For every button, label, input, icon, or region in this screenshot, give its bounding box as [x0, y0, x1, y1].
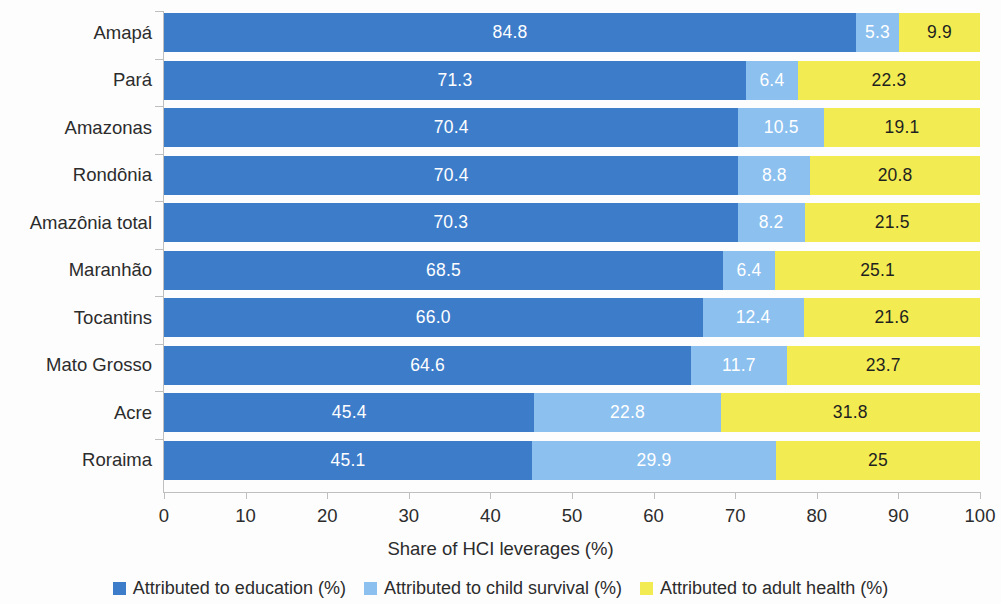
- bar-segment: 25.1: [775, 251, 980, 290]
- bar-value-label: 70.4: [434, 117, 469, 138]
- bar-segment: 6.4: [746, 61, 798, 100]
- legend-label: Attributed to child survival (%): [384, 578, 622, 599]
- bar-value-label: 6.4: [737, 260, 762, 281]
- x-axis-tick: [490, 492, 491, 499]
- x-axis-tick-label: 80: [787, 505, 847, 527]
- bar-value-label: 25.1: [860, 260, 895, 281]
- bar-row: 70.410.519.1: [164, 108, 980, 147]
- x-axis-tick-label: 100: [950, 505, 1001, 527]
- bar-row: 84.85.39.9: [164, 13, 980, 52]
- bar-segment: 25: [776, 441, 980, 480]
- y-axis-category-label: Amazônia total: [0, 212, 152, 234]
- y-axis-tick: [155, 344, 164, 345]
- bar-segment: 70.4: [164, 108, 738, 147]
- legend-label: Attributed to adult health (%): [660, 578, 888, 599]
- y-axis-tick: [155, 296, 164, 297]
- bar-segment: 21.5: [805, 203, 980, 242]
- x-axis-tick-label: 30: [379, 505, 439, 527]
- bar-row: 70.38.221.5: [164, 203, 980, 242]
- bar-segment: 29.9: [532, 441, 776, 480]
- x-axis-tick: [327, 492, 328, 499]
- x-axis-tick-label: 70: [705, 505, 765, 527]
- bar-segment: 70.3: [164, 203, 738, 242]
- y-axis-tick: [155, 249, 164, 250]
- y-axis-category-label: Rondônia: [0, 164, 152, 186]
- x-axis-title: Share of HCI leverages (%): [0, 538, 1001, 560]
- x-axis-tick-label: 20: [297, 505, 357, 527]
- y-axis-category-label: Amazonas: [0, 117, 152, 139]
- y-axis-tick: [155, 106, 164, 107]
- legend-item[interactable]: Attributed to education (%): [113, 578, 346, 599]
- bar-segment: 6.4: [723, 251, 775, 290]
- x-axis-tick-label: 10: [216, 505, 276, 527]
- legend-swatch-icon: [364, 582, 377, 595]
- y-axis-tick: [155, 201, 164, 202]
- legend-swatch-icon: [640, 582, 653, 595]
- bar-segment: 8.8: [738, 156, 810, 195]
- bar-value-label: 84.8: [493, 22, 528, 43]
- bar-segment: 19.1: [824, 108, 980, 147]
- bar-value-label: 10.5: [764, 117, 799, 138]
- bar-row: 71.36.422.3: [164, 61, 980, 100]
- bar-segment: 8.2: [738, 203, 805, 242]
- bar-value-label: 66.0: [416, 307, 451, 328]
- bar-value-label: 20.8: [878, 165, 913, 186]
- bar-row: 45.422.831.8: [164, 393, 980, 432]
- bar-value-label: 19.1: [885, 117, 920, 138]
- x-axis-tick-label: 0: [134, 505, 194, 527]
- bar-segment: 12.4: [703, 298, 804, 337]
- bar-value-label: 11.7: [722, 355, 756, 376]
- y-axis-tick: [155, 154, 164, 155]
- bar-segment: 31.8: [721, 393, 980, 432]
- bar-segment: 66.0: [164, 298, 703, 337]
- bar-segment: 22.3: [798, 61, 980, 100]
- bar-row: 45.129.925: [164, 441, 980, 480]
- bar-value-label: 9.9: [927, 22, 952, 43]
- bar-value-label: 8.2: [759, 212, 784, 233]
- bar-segment: 5.3: [856, 13, 899, 52]
- bar-value-label: 23.7: [866, 355, 901, 376]
- x-axis-tick: [898, 492, 899, 499]
- bar-segment: 45.4: [164, 393, 534, 432]
- bar-value-label: 6.4: [759, 70, 784, 91]
- x-axis-tick: [735, 492, 736, 499]
- bar-value-label: 64.6: [410, 355, 445, 376]
- y-axis-category-label: Acre: [0, 402, 152, 424]
- bar-row: 68.56.425.1: [164, 251, 980, 290]
- bar-segment: 9.9: [899, 13, 980, 52]
- bar-segment: 45.1: [164, 441, 532, 480]
- y-axis-tick: [155, 391, 164, 392]
- bar-segment: 68.5: [164, 251, 723, 290]
- x-axis-tick: [572, 492, 573, 499]
- chart-legend: Attributed to education (%)Attributed to…: [0, 578, 1001, 599]
- bar-value-label: 21.6: [874, 307, 909, 328]
- bar-row: 64.611.723.7: [164, 346, 980, 385]
- bar-value-label: 45.1: [331, 450, 366, 471]
- plot-area: 84.85.39.971.36.422.370.410.519.170.48.8…: [164, 13, 980, 492]
- legend-swatch-icon: [113, 582, 126, 595]
- bar-segment: 71.3: [164, 61, 746, 100]
- x-axis-tick: [817, 492, 818, 499]
- bar-segment: 84.8: [164, 13, 856, 52]
- bar-value-label: 8.8: [762, 165, 787, 186]
- bar-segment: 11.7: [691, 346, 786, 385]
- bar-value-label: 21.5: [875, 212, 910, 233]
- legend-item[interactable]: Attributed to adult health (%): [640, 578, 888, 599]
- stacked-bar-chart: AmapáParáAmazonasRondôniaAmazônia totalM…: [0, 0, 1001, 604]
- y-axis-category-label: Maranhão: [0, 259, 152, 281]
- legend-label: Attributed to education (%): [133, 578, 346, 599]
- bar-segment: 20.8: [810, 156, 980, 195]
- x-axis-tick: [409, 492, 410, 499]
- bar-segment: 64.6: [164, 346, 691, 385]
- x-axis-tick: [654, 492, 655, 499]
- bar-segment: 21.6: [804, 298, 980, 337]
- bar-value-label: 5.3: [865, 22, 890, 43]
- bar-segment: 70.4: [164, 156, 738, 195]
- y-axis-category-label: Pará: [0, 69, 152, 91]
- y-axis-tick: [155, 439, 164, 440]
- legend-item[interactable]: Attributed to child survival (%): [364, 578, 622, 599]
- x-axis-tick: [980, 492, 981, 499]
- bar-value-label: 70.3: [433, 212, 468, 233]
- bar-value-label: 70.4: [434, 165, 469, 186]
- x-axis-tick-label: 60: [624, 505, 684, 527]
